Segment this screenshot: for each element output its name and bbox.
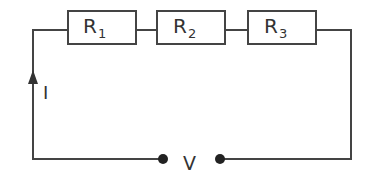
- terminal-right: [215, 154, 225, 164]
- label-r2: R2: [173, 16, 196, 36]
- current-arrow-icon: [28, 70, 38, 84]
- wire-right: [220, 30, 351, 159]
- terminal-left: [158, 154, 168, 164]
- voltage-label: V: [183, 154, 196, 173]
- label-r3: R3: [264, 16, 287, 36]
- current-label: I: [43, 84, 48, 102]
- wire-left-top: [33, 30, 163, 159]
- label-r1: R1: [83, 16, 106, 36]
